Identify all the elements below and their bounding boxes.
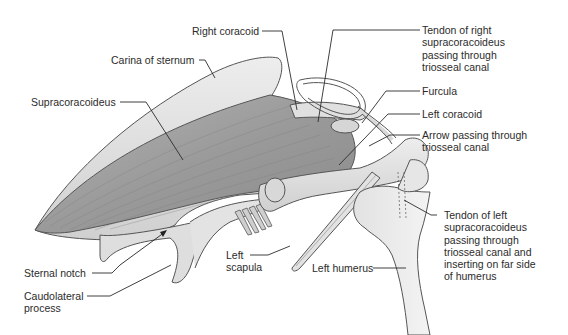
label-tendon-right-supracoracoideus: Tendon of right supracoracoideus passing… [422, 24, 505, 73]
label-supracoracoideus: Supracoracoideus [31, 96, 116, 108]
right-tendon-knob [331, 119, 359, 133]
label-carina-of-sternum: Carina of sternum [111, 54, 194, 66]
label-furcula: Furcula [422, 85, 457, 97]
sternum [35, 57, 355, 283]
label-caudolateral-process: Caudolateral process [24, 290, 84, 315]
label-tendon-left-supracoracoideus: Tendon of left supracoracoideus passing … [444, 209, 536, 283]
label-right-coracoid: Right coracoid [192, 25, 259, 37]
right-coracoid [290, 102, 366, 120]
label-left-scapula: Left scapula [226, 249, 262, 274]
label-left-humerus: Left humerus [312, 262, 373, 274]
label-sternal-notch: Sternal notch [24, 267, 86, 279]
label-left-coracoid: Left coracoid [422, 108, 482, 120]
label-arrow-triosseal-canal: Arrow passing through triosseal canal [422, 129, 527, 154]
